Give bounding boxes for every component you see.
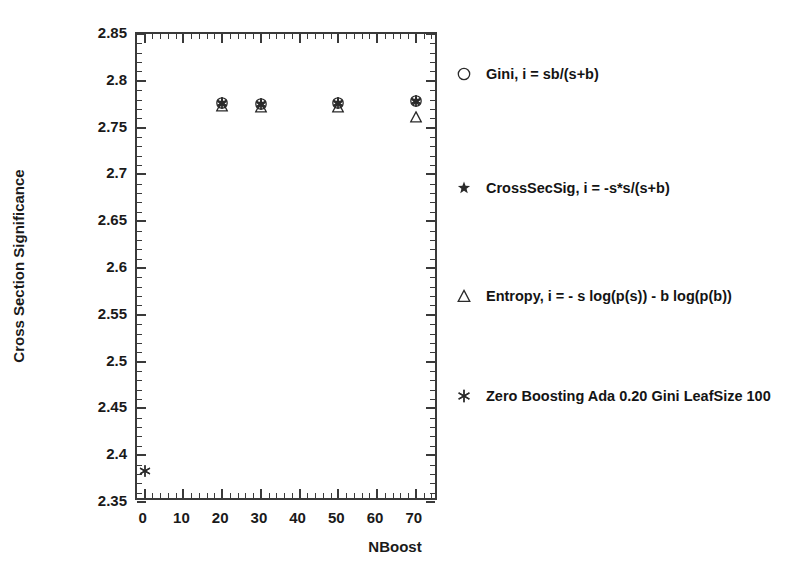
y-tick-minor	[430, 287, 435, 288]
x-tick-minor	[284, 493, 285, 498]
y-tick-major	[137, 454, 146, 456]
x-tick-minor	[253, 34, 254, 39]
x-tick-major	[376, 489, 378, 498]
y-tick-label: 2.35	[98, 492, 127, 509]
y-tick-minor	[430, 380, 435, 381]
x-tick-minor	[393, 493, 394, 498]
y-tick-minor	[137, 165, 142, 166]
x-tick-major	[260, 489, 262, 498]
y-tick-minor	[430, 446, 435, 447]
x-tick-minor	[152, 493, 153, 498]
y-tick-major	[137, 407, 146, 409]
y-tick-minor	[137, 118, 142, 119]
x-tick-minor	[408, 34, 409, 39]
y-tick-major	[137, 361, 146, 363]
x-tick-minor	[269, 493, 270, 498]
y-tick-minor	[430, 418, 435, 419]
asterisk-icon	[455, 387, 473, 405]
y-tick-minor	[430, 231, 435, 232]
y-tick-minor	[137, 352, 142, 353]
x-tick-minor	[431, 34, 432, 39]
triangle-icon	[455, 287, 473, 305]
x-tick-minor	[400, 493, 401, 498]
asterisk-data-point	[138, 465, 151, 478]
y-tick-minor	[137, 390, 142, 391]
y-tick-label: 2.7	[106, 164, 127, 181]
y-tick-minor	[430, 184, 435, 185]
y-tick-major	[426, 80, 435, 82]
asterisk-data-point	[216, 96, 229, 109]
y-tick-major	[426, 501, 435, 503]
y-tick-minor	[430, 43, 435, 44]
y-tick-minor	[430, 202, 435, 203]
y-tick-major	[426, 173, 435, 175]
x-tick-minor	[269, 34, 270, 39]
x-tick-minor	[176, 34, 177, 39]
x-tick-major	[415, 489, 417, 498]
x-tick-minor	[191, 34, 192, 39]
x-tick-minor	[362, 34, 363, 39]
x-tick-minor	[315, 34, 316, 39]
y-tick-minor	[137, 296, 142, 297]
y-tick-label: 2.4	[106, 445, 127, 462]
x-tick-major	[337, 34, 339, 43]
y-tick-minor	[430, 465, 435, 466]
y-tick-label: 2.5	[106, 351, 127, 368]
x-tick-minor	[323, 34, 324, 39]
x-tick-minor	[284, 34, 285, 39]
legend-label: Gini, i = sb/(s+b)	[486, 66, 599, 82]
y-tick-label: 2.75	[98, 117, 127, 134]
x-tick-label: 40	[289, 509, 306, 526]
y-tick-minor	[137, 249, 142, 250]
asterisk-data-point	[409, 94, 422, 107]
x-tick-minor	[276, 34, 277, 39]
y-tick-minor	[137, 287, 142, 288]
y-tick-minor	[137, 305, 142, 306]
x-tick-label: 50	[328, 509, 345, 526]
y-tick-minor	[137, 146, 142, 147]
plot-area	[135, 32, 437, 500]
y-tick-minor	[430, 483, 435, 484]
x-tick-label: 0	[139, 509, 147, 526]
asterisk-data-point	[254, 97, 267, 110]
x-tick-minor	[331, 34, 332, 39]
y-tick-major	[137, 173, 146, 175]
legend-item[interactable]: CrossSecSig, i = -s*s/(s+b)	[455, 179, 670, 197]
x-tick-minor	[315, 493, 316, 498]
x-tick-minor	[385, 34, 386, 39]
y-tick-major	[137, 501, 146, 503]
chart-legend: Gini, i = sb/(s+b)CrossSecSig, i = -s*s/…	[455, 0, 801, 580]
x-tick-minor	[176, 493, 177, 498]
legend-item[interactable]: Entropy, i = - s log(p(s)) - b log(p(b))	[455, 287, 732, 305]
x-tick-minor	[424, 34, 425, 39]
y-tick-minor	[430, 334, 435, 335]
y-tick-minor	[430, 100, 435, 101]
y-tick-major	[137, 220, 146, 222]
x-tick-minor	[276, 493, 277, 498]
x-tick-minor	[245, 493, 246, 498]
x-tick-minor	[253, 493, 254, 498]
y-tick-minor	[430, 53, 435, 54]
x-tick-minor	[245, 34, 246, 39]
x-tick-minor	[307, 34, 308, 39]
y-tick-minor	[137, 100, 142, 101]
x-tick-minor	[168, 493, 169, 498]
legend-item[interactable]: Gini, i = sb/(s+b)	[455, 65, 599, 83]
y-tick-minor	[137, 343, 142, 344]
x-tick-label: 60	[367, 509, 384, 526]
y-tick-minor	[137, 324, 142, 325]
legend-label: Zero Boosting Ada 0.20 Gini LeafSize 100	[486, 388, 771, 404]
x-tick-major	[299, 489, 301, 498]
x-tick-major	[221, 489, 223, 498]
y-tick-minor	[430, 212, 435, 213]
y-tick-minor	[137, 277, 142, 278]
legend-item[interactable]: Zero Boosting Ada 0.20 Gini LeafSize 100	[455, 387, 771, 405]
star-icon	[455, 179, 473, 197]
y-tick-minor	[137, 109, 142, 110]
y-tick-label: 2.55	[98, 304, 127, 321]
x-tick-major	[182, 489, 184, 498]
y-tick-minor	[137, 43, 142, 44]
x-tick-minor	[408, 493, 409, 498]
y-tick-label: 2.8	[106, 70, 127, 87]
y-tick-minor	[430, 193, 435, 194]
